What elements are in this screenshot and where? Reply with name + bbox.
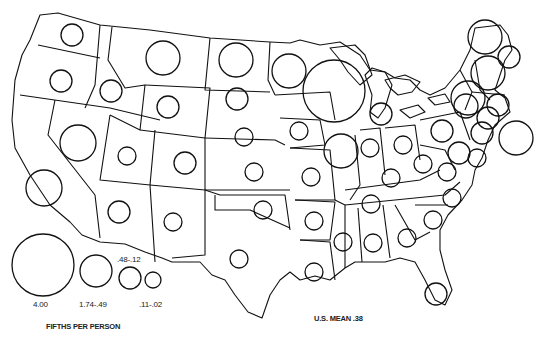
state-symbol-ms (334, 233, 352, 251)
state-symbol-id (100, 80, 122, 102)
legend-symbol-3 (145, 272, 161, 288)
state-symbol-va (438, 163, 456, 181)
state-symbol-il (324, 134, 358, 168)
state-symbol-nm (164, 213, 182, 231)
us-map (0, 0, 545, 341)
state-symbol-ut (118, 147, 136, 165)
state-symbol-az (108, 201, 130, 223)
state-symbol-tx (230, 250, 248, 268)
state-symbol-wy (157, 96, 179, 118)
state-symbol-vt (451, 81, 485, 115)
state-symbol-co (174, 152, 196, 174)
legend-label-4-00: 4.00 (33, 300, 48, 309)
legend-symbol-0 (12, 234, 74, 296)
state-symbol-ar (305, 212, 323, 230)
legend (12, 234, 161, 296)
state-symbol-ia (290, 122, 308, 140)
state-symbol-oh (394, 136, 412, 154)
state-symbol-nh (498, 46, 520, 68)
state-symbol-wv (414, 155, 432, 173)
state-symbol-mt (146, 41, 180, 75)
state-symbol-or (50, 70, 72, 92)
legend-label-0-11: .11-.02 (139, 300, 162, 309)
legend-symbol-1 (80, 255, 112, 287)
state-borders (12, 13, 512, 318)
state-symbol-la (305, 263, 323, 281)
state-symbol-mo (302, 168, 320, 186)
state-symbol-ca (26, 170, 62, 206)
legend-label-0-48: .48-.12 (117, 255, 141, 264)
state-symbol-pa (431, 120, 453, 142)
state-symbol-mn (272, 54, 306, 88)
legend-title: FIFTHS PER PERSON (46, 322, 120, 331)
state-symbol-sc (424, 211, 442, 229)
state-symbol-atlantic (499, 121, 533, 155)
us-mean-label: U.S. MEAN .38 (314, 314, 363, 323)
state-symbol-ne (235, 128, 253, 146)
legend-symbol-2 (119, 267, 141, 289)
state-symbol-fl (425, 283, 447, 305)
state-symbol-wa (61, 24, 83, 46)
state-symbol-nv (60, 125, 96, 161)
state-symbol-nc (443, 189, 461, 207)
state-symbol-md (448, 142, 470, 164)
state-symbol-in (361, 139, 379, 157)
state-symbol-tn (362, 195, 380, 213)
state-symbol-nj (471, 122, 493, 144)
state-symbol-de (468, 149, 486, 167)
state-symbol-al (364, 234, 382, 252)
state-symbol-ma (471, 56, 505, 90)
legend-label-1-74: 1.74-.49 (79, 300, 107, 309)
state-symbols (26, 20, 533, 305)
state-symbol-nd (219, 43, 253, 77)
state-symbol-ks (245, 163, 263, 181)
